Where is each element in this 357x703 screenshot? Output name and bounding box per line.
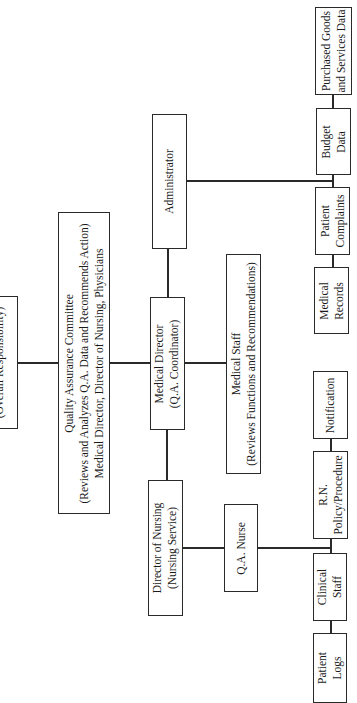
node-label: Quality Assurance Committee (Reviews and… [62,223,107,503]
node-label: Medical Staff (Reviews Functions and Rec… [229,262,259,465]
node-clinical-staff: Clinical Staff [313,553,347,621]
node-label: Clinical Staff [315,569,345,605]
node-administrator: Administrator [152,114,187,249]
node-label: (Overall Responsibility) [0,307,8,418]
node-label: Purchased Goods and Services Data [319,9,349,92]
edge-director-nursing-qa-nurse [183,547,224,549]
node-label: Q.A. Nurse [234,522,249,575]
node-purchased-goods: Purchased Goods and Services Data [315,7,352,95]
node-governing-board: (Overall Responsibility) [0,296,18,429]
node-label: Notification [323,377,338,433]
node-label: Director of Nursing (Nursing Service) [151,503,181,594]
node-director-of-nursing: Director of Nursing (Nursing Service) [148,480,183,616]
edge-qa-nurse-right-column [258,547,331,549]
node-qa-committee: Quality Assurance Committee (Reviews and… [58,212,110,514]
node-budget-data: Budget Data [316,108,351,175]
node-medical-staff: Medical Staff (Reviews Functions and Rec… [226,254,261,474]
node-label: Medical Records [317,282,347,320]
node-rn-policy-procedure: R.N. Policy/Procedure [313,451,348,539]
node-medical-records: Medical Records [314,267,349,334]
edge-medical-director-administrator [167,249,169,297]
node-label: Patient Logs [315,652,345,684]
node-patient-logs: Patient Logs [313,633,347,703]
node-qa-nurse: Q.A. Nurse [224,504,258,592]
node-label: Patient Complaints [318,194,348,247]
edge-medical-director-medical-staff [184,362,226,364]
node-medical-director: Medical Director (Q.A. Coordinator) [150,297,185,430]
node-notification: Notification [313,371,348,439]
node-label: Administrator [162,149,177,214]
edge-medical-director-director-nursing [166,430,168,480]
edge-administrator-right-column [186,180,333,182]
node-patient-complaints: Patient Complaints [315,187,350,255]
edge-qa-committee-medical-director [110,362,150,364]
edge-board-qa-committee [18,362,58,364]
node-label: Medical Director (Q.A. Coordinator) [153,319,183,407]
node-label: Budget Data [319,125,349,158]
node-label: R.N. Policy/Procedure [316,455,346,534]
